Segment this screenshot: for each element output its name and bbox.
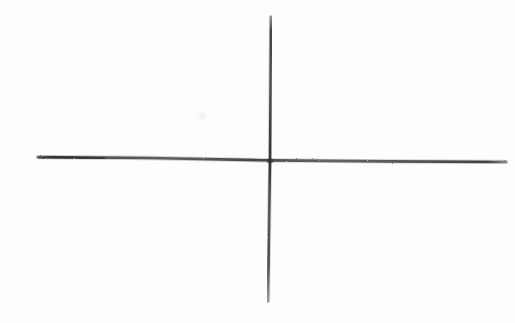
crossed-axes-drawing [0,0,515,323]
sketch-canvas: Two hand-drawn straight strokes crossing… [0,0,515,323]
paper-grain-overlay [0,0,515,323]
